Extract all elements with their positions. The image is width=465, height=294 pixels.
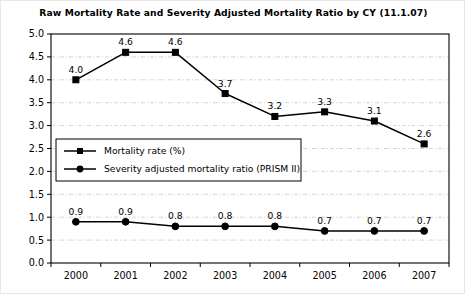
chart-legend: Mortality rate (%)Severity adjusted mort… (56, 139, 301, 181)
data-point-label: 4.6 (168, 36, 183, 47)
y-tick-label: 2.0 (29, 166, 44, 177)
chart-plot: 0.00.51.01.52.02.53.03.54.04.55.0 200020… (1, 1, 465, 294)
y-tick-label: 5.0 (29, 28, 44, 39)
data-point-label: 3.1 (367, 105, 382, 116)
x-axis: 20002001200220032004200520062007 (51, 263, 449, 281)
data-point-marker (371, 228, 378, 235)
data-point-marker (172, 223, 179, 230)
x-tick-label: 2006 (362, 270, 386, 281)
data-point-marker (72, 218, 79, 225)
data-point-marker (123, 49, 129, 55)
data-point-marker (272, 113, 278, 119)
data-point-marker (172, 49, 178, 55)
y-tick-label: 3.5 (29, 97, 44, 108)
data-point-marker (322, 109, 328, 115)
data-point-label: 3.3 (317, 96, 332, 107)
legend-entry-label: Severity adjusted mortality ratio (PRISM… (104, 163, 300, 174)
data-point-marker (122, 218, 129, 225)
data-point-label: 0.9 (118, 206, 133, 217)
data-point-label: 4.6 (118, 36, 133, 47)
y-tick-label: 4.5 (29, 51, 44, 62)
data-point-marker (222, 91, 228, 97)
data-point-label: 0.7 (417, 215, 432, 226)
x-tick-label: 2001 (113, 270, 137, 281)
data-point-label: 4.0 (69, 64, 84, 75)
data-point-marker (222, 223, 229, 230)
y-tick-label: 1.0 (29, 212, 44, 223)
x-tick-label: 2005 (312, 270, 336, 281)
y-tick-label: 3.0 (29, 120, 44, 131)
data-point-marker (321, 228, 328, 235)
data-point-label: 3.2 (268, 100, 283, 111)
x-tick-label: 2007 (412, 270, 436, 281)
legend-entry-label: Mortality rate (%) (104, 145, 185, 156)
y-tick-label: 4.0 (29, 74, 44, 85)
data-labels: 4.04.64.63.73.23.33.12.60.90.90.80.80.80… (69, 36, 432, 226)
data-point-label: 0.7 (317, 215, 332, 226)
data-point-marker (421, 228, 428, 235)
x-tick-label: 2004 (263, 270, 287, 281)
y-tick-label: 1.5 (29, 189, 44, 200)
data-point-label: 0.7 (367, 215, 382, 226)
data-point-marker (421, 141, 427, 147)
data-point-label: 0.8 (168, 210, 183, 221)
data-point-label: 0.8 (268, 210, 283, 221)
x-tick-label: 2002 (163, 270, 187, 281)
data-point-marker (271, 223, 278, 230)
x-tick-label: 2000 (64, 270, 88, 281)
x-tick-label: 2003 (213, 270, 237, 281)
data-point-marker (73, 77, 79, 83)
data-point-label: 2.6 (417, 128, 432, 139)
y-tick-label: 0.5 (29, 235, 44, 246)
data-point-label: 0.9 (69, 206, 84, 217)
chart-container: Raw Mortality Rate and Severity Adjusted… (0, 0, 465, 294)
y-tick-label: 0.0 (29, 257, 44, 268)
data-point-marker (371, 118, 377, 124)
data-point-label: 0.8 (218, 210, 233, 221)
data-point-label: 3.7 (218, 78, 233, 89)
y-tick-label: 2.5 (29, 143, 44, 154)
y-axis: 0.00.51.01.52.02.53.03.54.04.55.0 (29, 28, 51, 268)
